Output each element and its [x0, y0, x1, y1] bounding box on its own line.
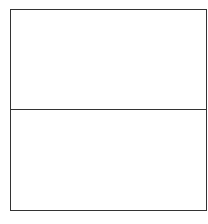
outer-box — [10, 9, 207, 211]
top-panel — [11, 10, 206, 110]
bottom-panel — [11, 110, 206, 210]
